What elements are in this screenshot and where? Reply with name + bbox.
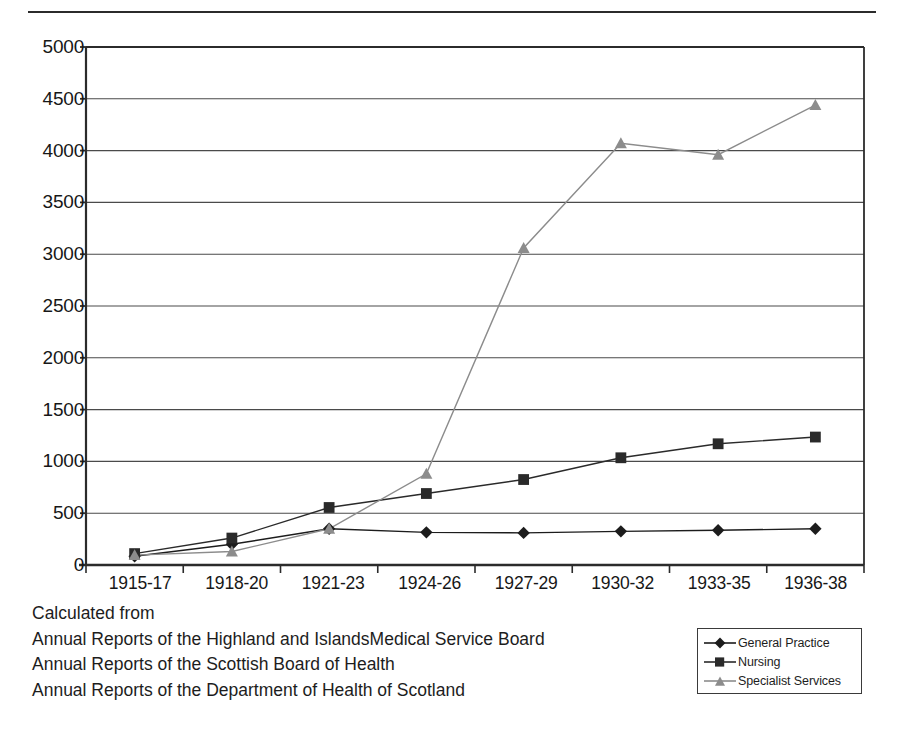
legend-square-icon	[703, 655, 737, 669]
legend-triangle-icon	[703, 674, 737, 688]
y-axis-tick-label: 2000	[22, 348, 84, 367]
y-axis-tick-label: 3500	[22, 192, 84, 211]
source-note-line: Annual Reports of the Department of Heal…	[32, 678, 672, 704]
x-axis-tick-label: 1936-38	[768, 573, 865, 599]
x-axis-tick-label: 1921-23	[285, 573, 382, 599]
x-axis-tick-label: 1927-29	[478, 573, 575, 599]
data-point-specialist-services	[615, 137, 627, 148]
x-axis-tick-label: 1933-35	[671, 573, 768, 599]
data-point-nursing	[421, 488, 432, 499]
data-point-specialist-services	[420, 468, 432, 479]
line-chart: 5000450040003500300025002000150010005000…	[0, 0, 898, 600]
legend-item: Nursing	[703, 652, 856, 671]
x-axis-tick-labels: 1915-171918-201921-231924-261927-291930-…	[92, 573, 864, 599]
legend-item: General Practice	[703, 633, 856, 652]
x-axis-tick-label: 1918-20	[189, 573, 286, 599]
data-point-general-practice	[420, 526, 432, 538]
data-point-general-practice	[712, 524, 724, 536]
x-axis-tick-label: 1930-32	[575, 573, 672, 599]
y-axis-tick-label: 5000	[22, 37, 84, 56]
x-axis-tick-label: 1924-26	[382, 573, 479, 599]
source-note-line: Annual Reports of the Highland and Islan…	[32, 627, 672, 653]
data-point-nursing	[713, 438, 724, 449]
data-point-general-practice	[517, 527, 529, 539]
data-point-general-practice	[615, 525, 627, 537]
legend-item-label: General Practice	[737, 636, 830, 650]
data-point-nursing	[226, 533, 237, 544]
legend-item-label: Specialist Services	[737, 674, 841, 688]
series-lines-group	[135, 105, 816, 556]
series-markers-group	[128, 99, 821, 562]
legend-item-label: Nursing	[737, 655, 780, 669]
y-axis-tick-label: 500	[22, 503, 84, 522]
y-axis-tick-label: 0	[22, 555, 84, 574]
data-point-nursing	[518, 474, 529, 485]
source-note-line: Calculated from	[32, 601, 672, 627]
legend-diamond-icon	[703, 636, 737, 650]
data-point-nursing	[324, 502, 335, 513]
data-point-nursing	[810, 432, 821, 443]
y-axis-tick-label: 4500	[22, 89, 84, 108]
y-axis-tick-label: 1000	[22, 451, 84, 470]
source-note-line: Annual Reports of the Scottish Board of …	[32, 652, 672, 678]
data-point-general-practice	[809, 523, 821, 535]
y-axis-tick-label: 3000	[22, 244, 84, 263]
gridlines-group	[86, 99, 864, 513]
chart-legend: General PracticeNursingSpecialist Servic…	[697, 628, 862, 694]
legend-item: Specialist Services	[703, 671, 856, 690]
x-axis-tick-label: 1915-17	[92, 573, 189, 599]
data-point-specialist-services	[809, 99, 821, 110]
source-note: Calculated fromAnnual Reports of the Hig…	[32, 601, 672, 703]
chart-plot-svg	[0, 0, 898, 600]
y-axis-tick-label: 2500	[22, 296, 84, 315]
y-axis-tick-label: 1500	[22, 400, 84, 419]
series-line-specialist-services	[135, 105, 816, 555]
y-axis-tick-labels: 5000450040003500300025002000150010005000	[22, 0, 84, 600]
y-axis-tick-label: 4000	[22, 141, 84, 160]
data-point-nursing	[615, 452, 626, 463]
